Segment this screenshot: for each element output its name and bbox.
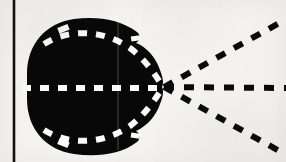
figure-root [0,0,286,162]
figure-canvas [0,0,286,162]
